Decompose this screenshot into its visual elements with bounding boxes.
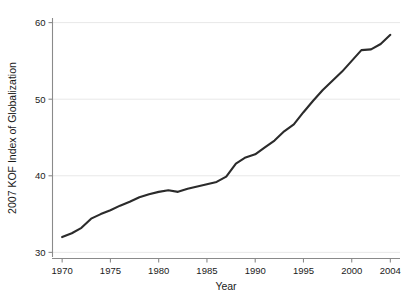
axes-group: [52, 18, 400, 259]
x-tick-label: 1985: [196, 265, 217, 276]
x-tick-label: 2000: [341, 265, 362, 276]
y-tick-label: 30: [35, 247, 46, 258]
y-tick-label: 60: [35, 17, 46, 28]
y-tick-label: 50: [35, 94, 46, 105]
x-tick-marks-group: [62, 259, 390, 263]
y-axis-title: 2007 KOF Index of Globalization: [6, 62, 18, 214]
y-tick-label: 40: [35, 170, 46, 181]
x-tick-label: 1970: [52, 265, 73, 276]
chart-container: 30405060 1970197519801985199019952000200…: [0, 0, 414, 299]
y-tick-labels-group: 30405060: [35, 17, 46, 258]
line-chart: 30405060 1970197519801985199019952000200…: [0, 0, 414, 299]
x-tick-label: 1975: [100, 265, 121, 276]
x-tick-label: 1990: [245, 265, 266, 276]
gridlines-group: [53, 23, 401, 253]
x-tick-label: 1980: [148, 265, 169, 276]
x-tick-label: 2004: [380, 265, 401, 276]
x-axis-title: Year: [215, 280, 237, 292]
x-tick-label: 1995: [293, 265, 314, 276]
data-series-line: [62, 35, 390, 237]
y-tick-marks-group: [49, 23, 53, 253]
x-tick-labels-group: 19701975198019851990199520002004: [52, 265, 401, 276]
